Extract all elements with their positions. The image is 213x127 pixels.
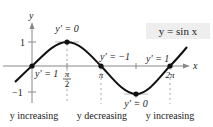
- annotation-y-prime-at-three-half-pi: y′ = 0: [123, 98, 147, 109]
- x-tick-label-half-pi-den: 2: [65, 79, 70, 89]
- y-tick-label-neg1: −1: [12, 87, 23, 98]
- point-zero: [29, 63, 34, 68]
- x-axis-label: x: [192, 60, 198, 71]
- annotation-y-prime-at-0: y′ = 1: [34, 68, 58, 79]
- interval-label-decreasing: y decreasing: [77, 110, 127, 121]
- point-max: [64, 39, 69, 44]
- y-axis-label: y: [28, 10, 34, 21]
- function-label: y = sin x: [159, 25, 198, 37]
- x-tick-label-pi: π: [99, 70, 104, 80]
- y-tick-label-1: 1: [20, 37, 25, 48]
- annotation-y-prime-at-half-pi: y′ = 0: [54, 23, 78, 34]
- annotation-y-prime-at-two-pi: y′ = 1: [145, 53, 169, 64]
- figure-canvas: y = sin x y x 1 −1 π 2 π 2π y′ = 1 y′ = …: [0, 0, 213, 127]
- point-pi: [98, 63, 103, 68]
- interval-label-increasing-2: y increasing: [146, 110, 195, 121]
- x-tick-label-two-pi: 2π: [165, 70, 175, 80]
- sine-derivative-figure: y = sin x y x 1 −1 π 2 π 2π y′ = 1 y′ = …: [0, 0, 213, 127]
- point-two-pi: [167, 63, 172, 68]
- x-axis-arrow-icon: [183, 64, 190, 69]
- y-axis-arrow-icon: [30, 22, 35, 29]
- annotation-y-prime-at-pi: y′ = −1: [99, 51, 130, 62]
- x-tick-label-half-pi-num: π: [65, 69, 70, 79]
- point-min: [133, 91, 138, 96]
- interval-label-increasing-1: y increasing: [10, 110, 59, 121]
